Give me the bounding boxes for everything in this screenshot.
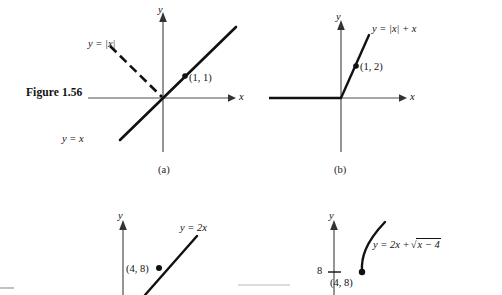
panel-d-y-axis-label: y xyxy=(329,210,334,221)
panel-d-plot xyxy=(0,0,502,295)
figure-1-56: Figure 1.56 y = |x| y = x (1, 1) x y (a) xyxy=(0,0,502,295)
panel-d-point-dot xyxy=(359,269,365,275)
panel-d-y-tick-label: 8 xyxy=(317,265,322,276)
panel-d-point-label: (4, 8) xyxy=(330,277,353,288)
panel-d-curve-label: y = 2x +√x − 4 xyxy=(373,239,441,250)
panel-d-radicand: x − 4 xyxy=(416,238,440,250)
square-root-icon: √x − 4 xyxy=(410,239,441,250)
